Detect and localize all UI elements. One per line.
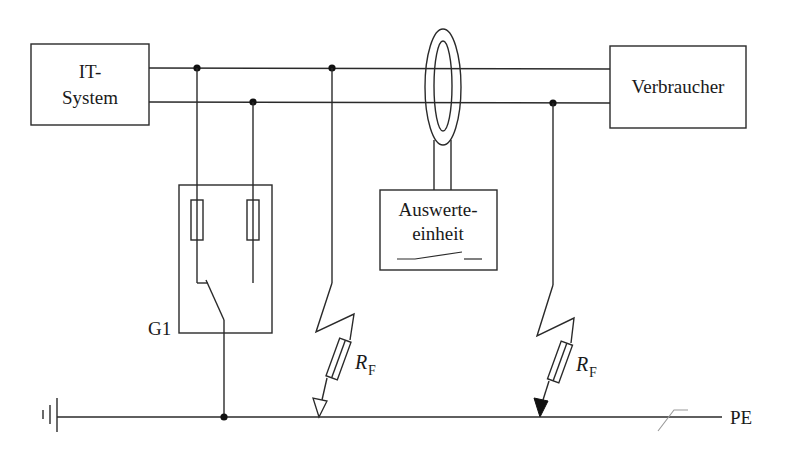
conductor-l1 xyxy=(149,68,610,69)
g1-label: G1 xyxy=(148,318,171,339)
fault-path-left: R F xyxy=(313,68,376,417)
fault-resistor-left-subscript: F xyxy=(368,363,376,378)
arrow-filled-icon xyxy=(534,398,548,417)
conductor-l2 xyxy=(149,102,610,103)
fault-resistor-right-symbol: R xyxy=(575,353,588,375)
it-system-label-2: System xyxy=(62,87,118,108)
load-label: Verbraucher xyxy=(632,76,726,97)
arrow-open-icon xyxy=(313,398,327,417)
fault-resistor-right-icon xyxy=(548,341,573,383)
it-system-label-1: IT- xyxy=(79,61,102,82)
it-system-block: IT- System xyxy=(31,44,149,125)
fault-resistor-left-symbol: R xyxy=(354,351,367,373)
fault-path-right: R F xyxy=(534,103,597,417)
evaluation-unit-label-1: Auswerte- xyxy=(398,199,477,220)
fault-resistor-right-subscript: F xyxy=(589,365,597,380)
pe-label: PE xyxy=(730,407,752,428)
g1-block: G1 xyxy=(148,68,272,417)
pe-marker-icon xyxy=(658,410,688,431)
evaluation-unit-label-2: einheit xyxy=(412,223,464,244)
fault-resistor-left-icon xyxy=(326,338,351,380)
junction-dot-pe xyxy=(220,413,227,420)
pe-conductor: PE xyxy=(43,398,752,432)
it-system-schematic: IT- System Verbraucher G1 xyxy=(0,0,785,453)
current-transformer-icon xyxy=(425,29,461,190)
load-block: Verbraucher xyxy=(610,46,746,128)
ground-icon xyxy=(43,398,57,432)
evaluation-unit-block: Auswerte- einheit xyxy=(380,190,497,270)
